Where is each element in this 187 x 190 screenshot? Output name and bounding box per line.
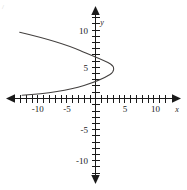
y-tick-label-neg5: -5 (81, 125, 89, 135)
x-tick-label-neg10: -10 (32, 104, 44, 114)
y-axis-label: y (99, 18, 104, 27)
parabola-upper-branch (20, 32, 114, 95)
x-axis-label: x (174, 105, 179, 114)
x-tick-label-5: 5 (123, 104, 128, 114)
x-tick-label-neg5: -5 (63, 104, 71, 114)
y-tick-label-10: 10 (79, 26, 89, 36)
parabola-curve-group (20, 32, 114, 95)
coordinate-plane-graph: -10 -5 5 10 x (0, 0, 187, 190)
x-axis-right-arrow-icon (172, 94, 181, 103)
y-tick-label-5: 5 (84, 63, 89, 73)
graph-screenshot: -10 -5 5 10 x (0, 0, 187, 190)
x-axis-left-arrow-icon (6, 94, 15, 103)
x-tick-label-10: 10 (151, 104, 161, 114)
y-axis-down-arrow-icon (91, 175, 99, 184)
y-tick-label-neg10: -10 (76, 156, 88, 166)
y-axis-up-arrow-icon (91, 6, 99, 15)
scan-corner-artifact: / (2, 3, 4, 11)
